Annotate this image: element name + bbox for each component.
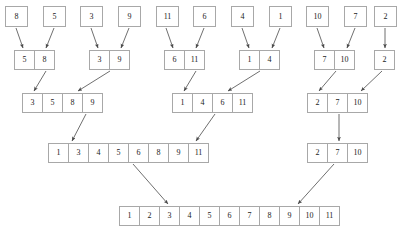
arrow-5-to-pair-1: [46, 28, 54, 48]
array-cell: 3: [89, 50, 110, 70]
array-singletons-5: 11: [156, 6, 179, 27]
array-cell: 1: [172, 93, 193, 113]
array-cell: 11: [156, 6, 179, 27]
arrow-quad2-to-half1: [196, 114, 215, 141]
array-cell: 4: [88, 143, 109, 163]
array-cell: 11: [319, 206, 340, 226]
arrow-pair2-to-quad1: [78, 71, 110, 91]
array-cell: 8: [148, 143, 169, 163]
array-singletons-9: 10: [306, 6, 329, 27]
array-cell: 3: [80, 6, 103, 27]
arrow-7-to-pair-5: [347, 28, 355, 48]
array-cell: 3: [159, 206, 180, 226]
array-cell: 5: [108, 143, 129, 163]
array-cell: 7: [327, 143, 348, 163]
arrow-8-to-pair-1: [16, 28, 23, 48]
array-cell: 11: [188, 143, 209, 163]
array-cell: 4: [179, 206, 200, 226]
array-cell: 3: [68, 143, 89, 163]
array-cell: 10: [334, 50, 355, 70]
arrow-9-to-pair-2: [121, 28, 129, 48]
array-cell: 6: [219, 206, 240, 226]
array-cell: 10: [347, 93, 368, 113]
array-cell: 10: [306, 6, 329, 27]
merge-sort-diagram: 8539116411072583961114710235891461127101…: [0, 0, 397, 240]
array-singletons-6: 6: [193, 6, 216, 27]
array-cell: 6: [128, 143, 149, 163]
array-cell: 1: [269, 6, 292, 27]
array-cell: 11: [232, 93, 253, 113]
array-singletons-3: 3: [80, 6, 103, 27]
array-pairs-merged-2: 39: [89, 50, 130, 70]
arrow-pair4-to-quad2: [228, 71, 260, 91]
array-singletons-4: 9: [118, 6, 141, 27]
arrow-6-to-pair-3: [196, 28, 204, 48]
arrow-pair5-to-quad3: [319, 71, 336, 91]
array-cell: 7: [314, 50, 335, 70]
arrow-single6-to-quad3: [361, 71, 382, 91]
array-cell: 2: [307, 143, 328, 163]
array-cell: 9: [82, 93, 103, 113]
array-cell: 5: [199, 206, 220, 226]
array-quads-merged-2: 14611: [172, 93, 253, 113]
array-singletons-1: 8: [5, 6, 28, 27]
array-halves-merged-2: 2710: [307, 143, 368, 163]
arrow-half1-to-final: [133, 164, 168, 204]
arrow-quad1-to-half1: [72, 114, 86, 141]
array-cell: 5: [14, 50, 35, 70]
array-pairs-merged-5: 710: [314, 50, 355, 70]
array-final-sorted-1: 1234567891011: [119, 206, 340, 226]
array-cell: 8: [62, 93, 83, 113]
array-pairs-merged-3: 611: [164, 50, 205, 70]
arrow-half2-to-final: [298, 164, 334, 204]
array-cell: 5: [42, 93, 63, 113]
array-cell: 7: [239, 206, 260, 226]
array-cell: 2: [374, 6, 397, 27]
array-cell: 2: [139, 206, 160, 226]
array-cell: 4: [259, 50, 280, 70]
array-cell: 8: [34, 50, 55, 70]
array-pairs-merged-4: 14: [239, 50, 280, 70]
array-quads-merged-3: 2710: [307, 93, 368, 113]
array-cell: 4: [192, 93, 213, 113]
array-cell: 5: [43, 6, 66, 27]
array-cell: 11: [184, 50, 205, 70]
array-singletons-8: 1: [269, 6, 292, 27]
arrow-4-to-pair-4: [242, 28, 249, 48]
array-cell: 6: [212, 93, 233, 113]
array-cell: 1: [239, 50, 260, 70]
arrow-pair3-to-quad2: [184, 71, 196, 91]
array-cell: 10: [347, 143, 368, 163]
array-cell: 8: [259, 206, 280, 226]
array-singletons-7: 4: [231, 6, 254, 27]
array-cell: 2: [374, 50, 395, 70]
array-cell: 9: [168, 143, 189, 163]
arrow-layer: [0, 0, 397, 240]
array-cell: 7: [344, 6, 367, 27]
array-halves-merged-1: 134568911: [48, 143, 209, 163]
array-cell: 1: [119, 206, 140, 226]
arrow-10-to-pair-5: [317, 28, 324, 48]
array-singletons-2: 5: [43, 6, 66, 27]
array-cell: 9: [118, 6, 141, 27]
array-cell: 1: [48, 143, 69, 163]
arrow-1-to-pair-4: [272, 28, 280, 48]
array-quads-merged-1: 3589: [22, 93, 103, 113]
array-pairs-merged-6: 2: [374, 50, 395, 70]
array-singletons-10: 7: [344, 6, 367, 27]
array-cell: 10: [299, 206, 320, 226]
array-pairs-merged-1: 58: [14, 50, 55, 70]
array-cell: 4: [231, 6, 254, 27]
arrow-11-to-pair-3: [166, 28, 173, 48]
arrow-3-to-pair-2: [91, 28, 98, 48]
array-cell: 9: [279, 206, 300, 226]
arrow-pair1-to-quad1: [34, 71, 46, 91]
array-cell: 3: [22, 93, 43, 113]
array-cell: 6: [164, 50, 185, 70]
array-singletons-11: 2: [374, 6, 397, 27]
array-cell: 7: [327, 93, 348, 113]
array-cell: 8: [5, 6, 28, 27]
array-cell: 2: [307, 93, 328, 113]
array-cell: 6: [193, 6, 216, 27]
array-cell: 9: [109, 50, 130, 70]
